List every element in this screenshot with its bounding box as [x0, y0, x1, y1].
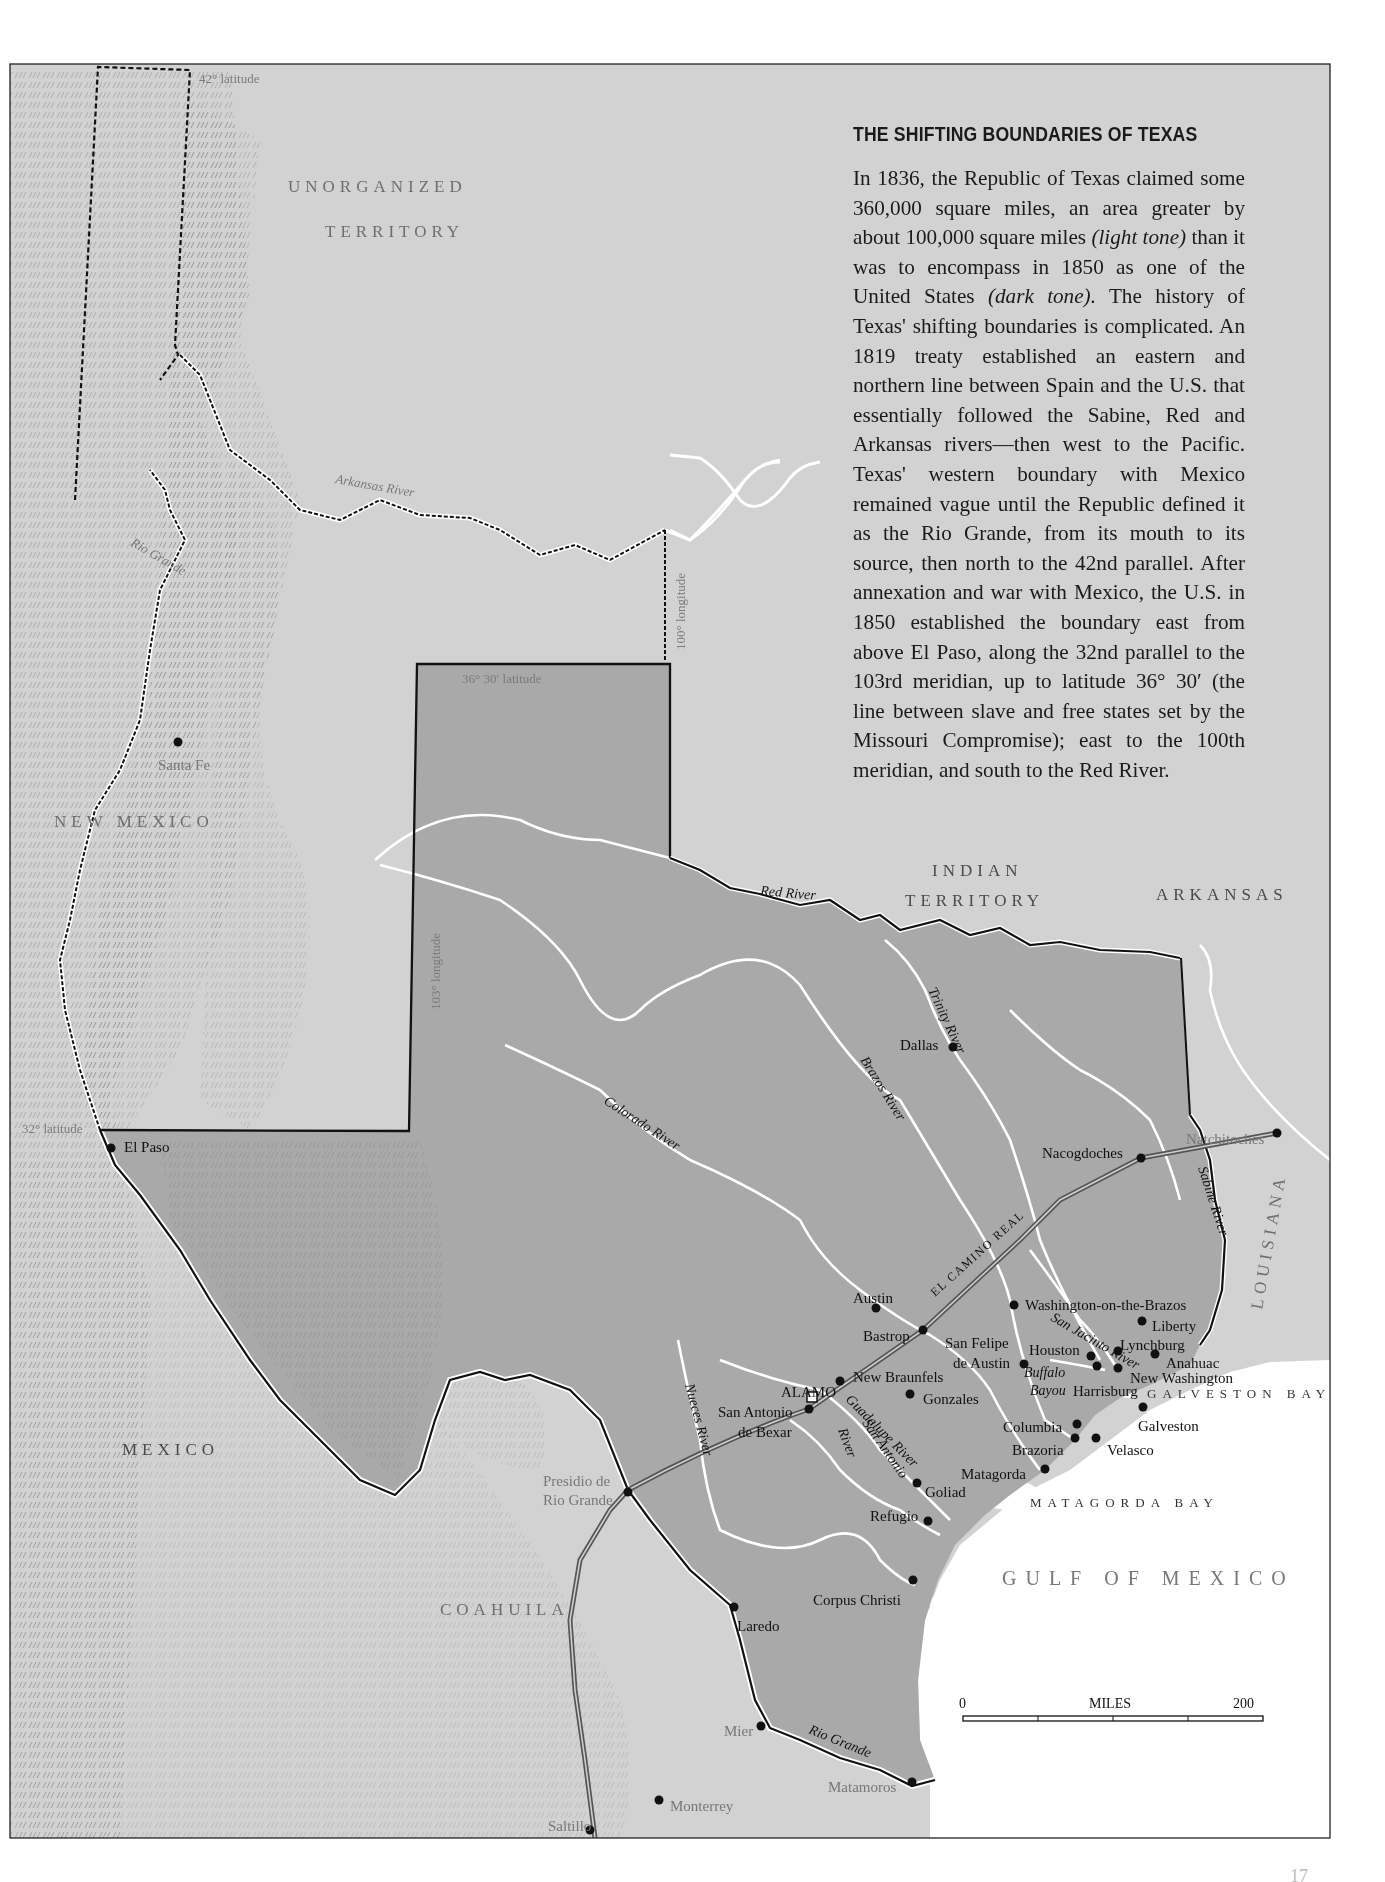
city-dot-icon [1041, 1465, 1050, 1474]
city-dot-icon [1137, 1154, 1146, 1163]
scale-end-label: 200 [1233, 1696, 1254, 1711]
city-dot-icon [909, 1576, 918, 1585]
place-label-saltillo: Saltillo [548, 1818, 591, 1834]
city-dot-icon [1092, 1434, 1101, 1443]
city-dot-icon [1093, 1362, 1102, 1371]
place-label-refugio: Refugio [870, 1508, 918, 1524]
water-label-galveston-bay: GALVESTON BAY [1147, 1386, 1331, 1401]
boundary-label-103-longitude: 103° longitude [428, 933, 443, 1010]
panel-body-italic: (dark tone). [988, 284, 1096, 308]
city-dot-icon [949, 1043, 958, 1052]
place-label-nacogdoches: Nacogdoches [1042, 1145, 1123, 1161]
place-label-san-felipe: San Felipe [945, 1335, 1009, 1351]
place-label-austin: Austin [853, 1290, 894, 1306]
panel-body-text: The history of Texas' shifting boundarie… [853, 284, 1245, 782]
place-label-columbia: Columbia [1003, 1419, 1063, 1435]
region-label-indian: INDIAN [932, 861, 1022, 880]
place-label-goliad: Goliad [925, 1484, 966, 1500]
city-dot-icon [1020, 1360, 1029, 1369]
city-dot-icon [757, 1722, 766, 1731]
water-label-gulf-of-mexico: GULF OF MEXICO [1002, 1567, 1295, 1589]
scale-start-label: 0 [959, 1696, 966, 1711]
place-label-houston: Houston [1029, 1342, 1080, 1358]
place-label-dallas: Dallas [900, 1037, 938, 1053]
city-dot-icon [655, 1796, 664, 1805]
place-label-de-austin: de Austin [953, 1355, 1011, 1371]
region-label-unorganized: UNORGANIZED [288, 177, 467, 196]
place-label-matamoros: Matamoros [828, 1779, 896, 1795]
city-dot-icon [924, 1517, 933, 1526]
city-dot-icon [174, 738, 183, 747]
city-dot-icon [730, 1603, 739, 1612]
scale-unit-label: MILES [1089, 1696, 1131, 1711]
city-dot-icon [805, 1405, 814, 1414]
place-label-gonzales: Gonzales [923, 1391, 979, 1407]
city-dot-icon [624, 1488, 633, 1497]
city-dot-icon [906, 1390, 915, 1399]
city-dot-icon [1087, 1352, 1096, 1361]
city-dot-icon [908, 1778, 917, 1787]
city-dot-icon [1010, 1301, 1019, 1310]
place-label-mier: Mier [724, 1723, 753, 1739]
description-panel: THE SHIFTING BOUNDARIES OF TEXAS In 1836… [853, 122, 1245, 785]
place-label-rio-grande: Rio Grande [543, 1492, 613, 1508]
place-label-galveston: Galveston [1138, 1418, 1199, 1434]
boundary-label-36-30-latitude: 36° 30′ latitude [462, 671, 542, 686]
place-label-de-bexar: de Bexar [738, 1424, 792, 1440]
place-label-alamo: ALAMO [781, 1384, 836, 1400]
river-label-buffalo: Buffalo [1024, 1365, 1065, 1380]
place-label-san-antonio: San Antonio [718, 1404, 793, 1420]
city-dot-icon [1138, 1317, 1147, 1326]
place-label-anahuac: Anahuac [1166, 1355, 1220, 1371]
place-label-laredo: Laredo [737, 1618, 779, 1634]
place-label-velasco: Velasco [1107, 1442, 1154, 1458]
city-dot-icon [107, 1144, 116, 1153]
river-label-bayou: Bayou [1030, 1383, 1066, 1398]
region-label-mexico: MEXICO [122, 1440, 219, 1459]
city-dot-icon [1071, 1434, 1080, 1443]
city-dot-icon [1073, 1420, 1082, 1429]
place-label-harrisburg: Harrisburg [1073, 1383, 1138, 1399]
city-dot-icon [836, 1377, 845, 1386]
place-label-new-braunfels: New Braunfels [853, 1369, 944, 1385]
place-label-natchitoches: Natchitoches [1186, 1131, 1264, 1147]
boundary-label-100-longitude: 100° longitude [673, 573, 688, 650]
city-dot-icon [1139, 1403, 1148, 1412]
region-label-arkansas: ARKANSAS [1156, 885, 1288, 904]
place-label-brazoria: Brazoria [1012, 1442, 1064, 1458]
city-dot-icon [919, 1326, 928, 1335]
place-label-presidio-de: Presidio de [543, 1473, 610, 1489]
region-label-coahuila: COAHUILA [440, 1600, 569, 1619]
city-dot-icon [913, 1479, 922, 1488]
place-label-matagorda: Matagorda [961, 1466, 1026, 1482]
place-label-santa-fe: Santa Fe [158, 757, 210, 773]
place-label-washington-on-the-brazos: Washington-on-the-Brazos [1025, 1297, 1186, 1313]
region-label-territory: TERRITORY [325, 222, 464, 241]
city-dot-icon [1273, 1129, 1282, 1138]
city-dot-icon [1151, 1350, 1160, 1359]
panel-body: In 1836, the Republic of Texas claimed s… [853, 164, 1245, 785]
water-label-matagorda-bay: MATAGORDA BAY [1030, 1495, 1219, 1510]
panel-body-italic: (light tone) [1091, 225, 1186, 249]
page-number: 17 [1290, 1866, 1308, 1882]
region-label-new-mexico: NEW MEXICO [54, 812, 214, 831]
city-dot-icon [1114, 1364, 1123, 1373]
place-label-el-paso: El Paso [124, 1139, 169, 1155]
panel-title: THE SHIFTING BOUNDARIES OF TEXAS [853, 122, 1190, 146]
place-label-monterrey: Monterrey [670, 1798, 734, 1814]
gulf-water-south [930, 1780, 1330, 1840]
place-label-new-washington: New Washington [1130, 1370, 1234, 1386]
boundary-label-32-latitude: 32° latitude [22, 1121, 83, 1136]
place-label-corpus-christi: Corpus Christi [813, 1592, 901, 1608]
region-label-territory: TERRITORY [905, 891, 1044, 910]
place-label-bastrop: Bastrop [863, 1328, 910, 1344]
boundary-label-42-latitude: 42° latitude [199, 71, 260, 86]
place-label-liberty: Liberty [1152, 1318, 1197, 1334]
